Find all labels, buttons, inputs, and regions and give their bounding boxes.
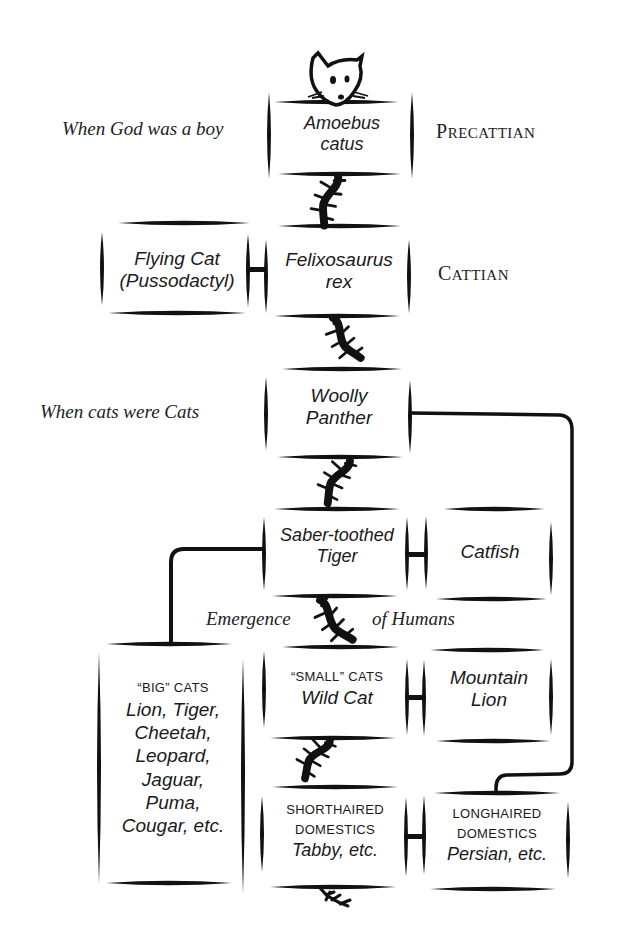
node-name-line1: Woolly xyxy=(268,385,410,407)
label-felixosaurus: Felixosaurus rex xyxy=(268,249,410,294)
node-species: Jaguar, xyxy=(102,768,244,791)
h-connector xyxy=(248,267,266,272)
label-shorthaired: SHORTHAIRED DOMESTICS Tabby, etc. xyxy=(264,800,406,862)
period-rest: RECATTIAN xyxy=(448,125,536,141)
node-name-line2: Tiger xyxy=(266,546,408,567)
node-name-line1: Amoebus xyxy=(276,113,408,134)
woolly-to-longhaired-line xyxy=(410,413,572,795)
cat-head-icon xyxy=(308,53,368,105)
label-mountain-lion: Mountain Lion xyxy=(426,667,552,712)
node-species: Lion, Tiger, xyxy=(102,698,244,721)
node-heading: DOMESTICS xyxy=(264,820,406,840)
node-name-line2: Lion xyxy=(426,689,552,711)
period-rest: ATTIAN xyxy=(452,267,509,283)
label-woolly-panther: Woolly Panther xyxy=(268,385,410,430)
label-small-cats: “SMALL” CATS Wild Cat xyxy=(266,667,408,710)
era-label-cats-cats: When cats were Cats xyxy=(40,401,199,423)
node-species: Wild Cat xyxy=(266,687,408,709)
period-initial: P xyxy=(436,120,448,142)
node-species: Puma, xyxy=(102,791,244,814)
node-name-line1: Mountain xyxy=(426,667,552,689)
label-longhaired: LONGHAIRED DOMESTICS Persian, etc. xyxy=(426,804,568,866)
node-heading: LONGHAIRED xyxy=(426,804,568,824)
period-cattian: CATTIAN xyxy=(438,262,509,285)
cat-tail-icon xyxy=(308,594,358,650)
label-saber-toothed: Saber-toothed Tiger xyxy=(266,525,408,567)
h-connector xyxy=(406,834,424,839)
era-label-emergence-right: of Humans xyxy=(372,608,455,630)
node-heading: DOMESTICS xyxy=(426,824,568,844)
label-big-cats: “BIG” CATS Lion, Tiger, Cheetah, Leopard… xyxy=(102,678,244,837)
cat-tail-icon xyxy=(312,452,359,506)
period-initial: C xyxy=(438,262,452,284)
node-name-line1: Saber-toothed xyxy=(266,525,408,546)
node-name-line2: (Pussodactyl) xyxy=(106,270,248,292)
period-precattian: PRECATTIAN xyxy=(436,120,535,143)
label-flying-cat: Flying Cat (Pussodactyl) xyxy=(106,248,248,293)
node-name-line2: rex xyxy=(268,271,410,293)
node-species: Leopard, xyxy=(102,744,244,767)
h-connector xyxy=(407,552,425,557)
cat-tail-icon xyxy=(306,171,347,228)
node-name-line1: Catfish xyxy=(428,541,552,563)
label-catfish: Catfish xyxy=(428,541,552,563)
node-name-line2: Panther xyxy=(268,407,410,429)
node-heading: “BIG” CATS xyxy=(102,678,244,698)
era-label-god-boy: When God was a boy xyxy=(62,118,223,140)
cat-tail-icon xyxy=(320,888,350,906)
saber-to-bigcats-line xyxy=(171,549,264,645)
label-amoebus: Amoebus catus xyxy=(276,113,408,155)
node-species: Tabby, etc. xyxy=(264,840,406,861)
node-species: Cougar, etc. xyxy=(102,814,244,837)
node-name-line1: Felixosaurus xyxy=(268,249,410,271)
cat-tail-icon xyxy=(320,313,366,368)
node-species: Cheetah, xyxy=(102,721,244,744)
node-species: Persian, etc. xyxy=(426,844,568,865)
node-heading: SHORTHAIRED xyxy=(264,800,406,820)
era-label-emergence-left: Emergence xyxy=(206,608,291,630)
node-name-line1: Flying Cat xyxy=(106,248,248,270)
node-heading: “SMALL” CATS xyxy=(266,667,408,687)
node-name-line2: catus xyxy=(276,134,408,155)
